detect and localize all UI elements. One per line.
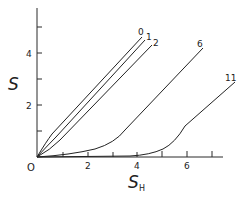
x-axis-title: S — [128, 172, 139, 192]
curve-label-11: 11 — [225, 73, 236, 83]
curve-label-2: 2 — [153, 38, 159, 48]
y-tick-label-4: 4 — [26, 49, 32, 59]
curve-6 — [37, 48, 203, 157]
x-axis-title-subscript: H — [139, 184, 145, 193]
y-ticks — [37, 27, 42, 131]
curve-label-0: 0 — [138, 27, 144, 37]
curve-label-6: 6 — [197, 39, 203, 49]
curve-0 — [37, 37, 142, 157]
curve-2 — [37, 45, 152, 157]
x-tick-label-4: 4 — [134, 161, 140, 171]
curve-1 — [37, 40, 145, 157]
curve-label-1: 1 — [146, 32, 152, 42]
curve-11 — [37, 82, 235, 157]
origin-label: O — [27, 162, 35, 173]
x-tick-label-2: 2 — [85, 161, 91, 171]
y-axis-title: S — [8, 74, 19, 94]
x-tick-label-6: 6 — [184, 161, 190, 171]
y-tick-label-2: 2 — [26, 101, 32, 111]
chart-plot: 4 2 O 2 4 6 S S H 0 1 2 6 11 — [0, 0, 240, 204]
